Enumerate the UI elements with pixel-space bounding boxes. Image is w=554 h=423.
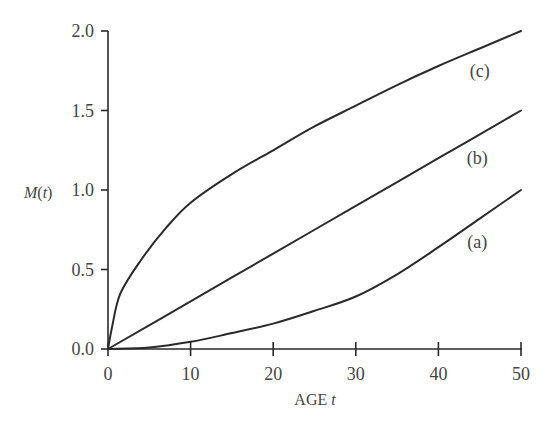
chart: 0.00.51.01.52.0 01020304050 M(t) AGE t (…: [0, 0, 554, 423]
x-axis: 01020304050: [104, 342, 531, 384]
y-tick-label: 0.5: [72, 260, 95, 280]
x-tick-label: 40: [429, 364, 447, 384]
curve-c: [108, 31, 521, 349]
x-tick-label: 10: [182, 364, 200, 384]
x-tick-label: 50: [512, 364, 530, 384]
x-tick-label: 20: [264, 364, 282, 384]
x-axis-title: AGE t: [294, 391, 336, 408]
y-axis: 0.00.51.01.52.0: [72, 21, 109, 359]
y-tick-label: 1.0: [72, 180, 95, 200]
y-tick-label: 1.5: [72, 101, 95, 121]
y-tick-label: 0.0: [72, 339, 95, 359]
x-tick-label: 30: [347, 364, 365, 384]
x-tick-label: 0: [104, 364, 113, 384]
curve-label: (a): [467, 232, 487, 253]
curve-b: [108, 111, 521, 350]
y-tick-label: 2.0: [72, 21, 95, 41]
y-axis-title: M(t): [23, 184, 52, 202]
plot-curves: [108, 31, 521, 349]
curve-label: (b): [467, 148, 488, 169]
curve-label: (c): [470, 61, 490, 82]
curve-a: [108, 190, 521, 349]
